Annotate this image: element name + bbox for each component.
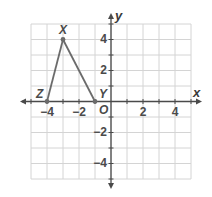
coordinate-plane: x y O −4 −2 2 4 4 2 −2 −4 X Y Z (0, 0, 212, 197)
vertex-point-z (45, 99, 50, 104)
vertex-label-z: Z (35, 87, 44, 101)
vertex-point-y (93, 99, 98, 104)
x-axis-left-arrow-icon (20, 99, 26, 105)
vertex-label-x: X (58, 23, 68, 37)
y-tick-label: 4 (100, 32, 107, 46)
y-tick-label: −2 (93, 125, 107, 139)
y-axis-label: y (114, 8, 123, 23)
vertex-label-y: Y (99, 87, 108, 101)
y-tick-label: −4 (93, 156, 107, 170)
y-tick-label: 2 (100, 63, 107, 77)
x-tick-label: 2 (140, 105, 147, 119)
origin-label: O (99, 103, 109, 117)
y-axis-down-arrow-icon (108, 183, 114, 189)
y-axis-up-arrow-icon (108, 13, 114, 19)
x-tick-label: 4 (172, 105, 179, 119)
vertex-labels: X Y Z (35, 23, 108, 101)
x-axis-label: x (192, 85, 201, 100)
x-tick-label: −4 (40, 105, 54, 119)
vertex-point-x (61, 37, 66, 42)
x-tick-label: −2 (72, 105, 86, 119)
